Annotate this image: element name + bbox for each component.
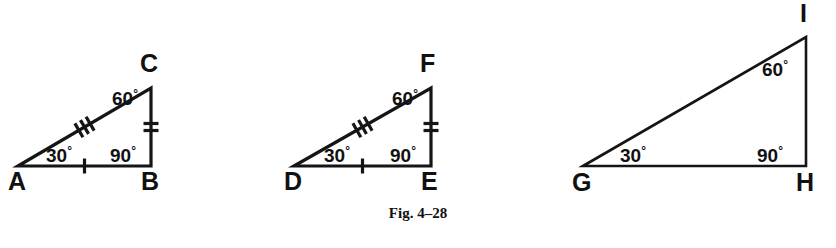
vertex-label-a: A [8,167,26,195]
angle-a-label: 30° [46,144,72,166]
angle-h-label: 90° [757,144,783,166]
angle-c-label: 60° [112,87,138,109]
vertex-label-c: C [140,49,158,77]
figure-caption: Fig. 4–28 [389,205,447,221]
vertex-label-g: G [572,168,591,196]
vertex-label-e: E [421,167,438,195]
vertex-label-i: I [800,0,807,27]
triangle-def-hypotenuse-ticks [353,117,372,137]
angle-b-label: 90° [110,144,136,166]
angle-e-label: 90° [390,144,416,166]
vertex-label-b: B [141,167,159,195]
triangle-abc: 30°90°60°ABC [8,49,159,195]
triangle-abc-hypotenuse-ticks [75,117,94,137]
triangles-layer: 30°90°60°ABC30°90°60°DEF30°90°60°GHI [8,0,814,196]
triangle-ghi: 30°90°60°GHI [572,0,814,196]
triangle-def: 30°90°60°DEF [284,49,439,195]
angle-g-label: 30° [620,144,646,166]
angle-i-label: 60° [762,58,788,80]
angle-d-label: 30° [324,144,350,166]
vertex-label-h: H [796,168,814,196]
vertex-label-d: D [284,167,302,195]
geometry-figure: 30°90°60°ABC30°90°60°DEF30°90°60°GHI Fig… [0,0,836,248]
vertex-label-f: F [420,49,435,77]
angle-f-label: 60° [392,87,418,109]
figure-container: 30°90°60°ABC30°90°60°DEF30°90°60°GHI Fig… [0,0,836,248]
